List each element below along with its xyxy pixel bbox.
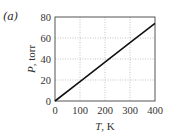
y-tick-label: 80	[41, 12, 52, 23]
y-tick-label: 0	[46, 96, 51, 107]
y-tick-label: 20	[41, 75, 52, 86]
x-tick-label: 100	[72, 105, 88, 116]
x-axis-ticks: 0100200300400	[52, 105, 163, 116]
y-tick-label: 60	[41, 33, 52, 44]
chart: 0100200300400 020406080 T, K P, torr	[0, 0, 170, 137]
y-axis-label: P, torr	[25, 45, 37, 74]
y-axis-ticks: 020406080	[41, 12, 52, 107]
x-tick-label: 200	[97, 105, 113, 116]
y-tick-label: 40	[41, 54, 52, 65]
x-tick-label: 0	[52, 105, 57, 116]
x-tick-label: 300	[122, 105, 138, 116]
x-axis-label: T, K	[95, 120, 115, 132]
x-tick-label: 400	[147, 105, 163, 116]
